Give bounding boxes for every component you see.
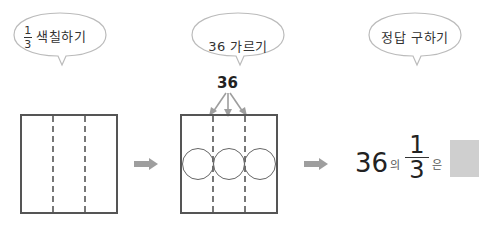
dashed-divider [84,116,86,212]
particle-of: 의 [390,160,400,171]
bubble-fraction: 1 3 [24,25,32,50]
right-arrow-icon [304,158,328,170]
bubble-label: 색칠하기 [36,29,86,44]
group-circle [182,148,214,180]
answer-whole-number: 36 [355,150,388,176]
bubble-title-shade: 1 3 색칠하기 [24,25,86,50]
total-value: 36 [217,74,238,92]
particle-topic: 은 [432,160,442,171]
right-arrow-icon [134,158,158,170]
split-rectangle [180,114,278,214]
dashed-divider [52,116,54,212]
group-circle [244,148,276,180]
answer-fraction: 1 3 [405,134,429,181]
bubble-title-answer: 정답 구하기 [365,27,465,46]
answer-blank[interactable] [450,140,479,177]
group-circle [213,148,245,180]
shade-rectangle [20,114,118,214]
bubble-title-split: 36 가르기 [188,36,288,55]
